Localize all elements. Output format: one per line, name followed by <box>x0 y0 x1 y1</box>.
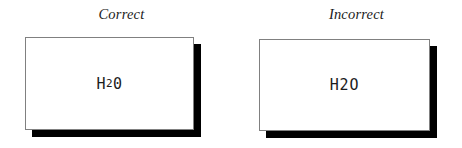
formula-base-incorrect: H2O <box>330 76 360 94</box>
formula-base-correct: H <box>97 75 107 93</box>
formula-incorrect: H2O <box>259 39 430 131</box>
panel-label-correct: Correct <box>0 6 237 23</box>
panel-label-incorrect: Incorrect <box>231 6 462 23</box>
formula-correct: H20 <box>25 37 194 130</box>
card-incorrect: H2O <box>259 39 430 131</box>
comparison-figure: Correct H20 Incorrect H2O <box>0 0 462 148</box>
formula-tail-correct: 0 <box>113 75 123 93</box>
formula-subscript-correct: 2 <box>106 77 113 90</box>
card-correct: H20 <box>25 37 194 130</box>
